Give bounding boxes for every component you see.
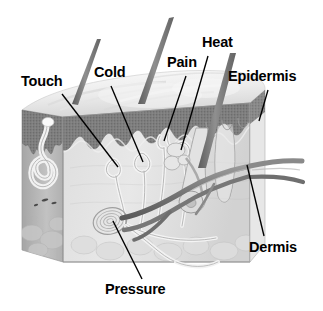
- label-pain: Pain: [167, 55, 197, 70]
- skin-illustration: [0, 0, 323, 311]
- label-cold: Cold: [94, 65, 125, 80]
- sweat-pore: [42, 118, 54, 127]
- label-pressure: Pressure: [105, 282, 165, 297]
- label-dermis: Dermis: [249, 240, 297, 255]
- block-left-face: [21, 110, 67, 262]
- nerve-exit: [176, 262, 218, 267]
- block-front-face: [63, 103, 257, 262]
- skin-sensory-receptors-diagram: Touch Cold Pain Heat Epidermis Dermis Pr…: [0, 0, 323, 311]
- label-epidermis: Epidermis: [228, 69, 296, 84]
- label-touch: Touch: [21, 74, 62, 89]
- label-heat: Heat: [202, 35, 233, 50]
